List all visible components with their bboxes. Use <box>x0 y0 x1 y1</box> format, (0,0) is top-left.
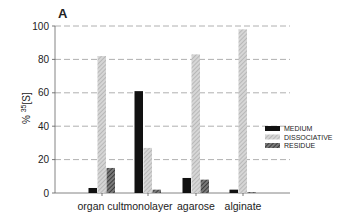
bar-dissociative <box>144 148 153 193</box>
bar-residue <box>107 168 116 193</box>
bar-residue <box>248 192 257 193</box>
y-tick-label: 0 <box>43 188 49 199</box>
legend-swatch <box>265 143 280 148</box>
y-tick-label: 40 <box>38 121 50 132</box>
y-tick-label: 60 <box>38 87 50 98</box>
legend: MEDIUMDISSOCIATIVERESIDUE <box>265 125 333 149</box>
x-tick-label: monolayer <box>123 200 173 212</box>
legend-swatch <box>265 135 280 140</box>
bars <box>89 29 257 193</box>
bar-medium <box>183 178 192 193</box>
bar-residue <box>153 190 162 193</box>
gridlines <box>55 26 290 160</box>
axes <box>52 26 290 196</box>
x-tick-label: agarose <box>177 200 215 212</box>
legend-swatch <box>265 126 280 131</box>
bar-residue <box>201 180 210 193</box>
legend-label: MEDIUM <box>284 125 313 132</box>
bar-dissociative <box>239 29 248 193</box>
bar-dissociative <box>98 56 107 193</box>
bar-dissociative <box>192 54 201 193</box>
y-tick-label: 80 <box>38 54 50 65</box>
bar-medium <box>135 91 144 193</box>
bar-medium <box>89 188 98 193</box>
x-tick-label: alginate <box>225 200 262 212</box>
bar-medium <box>230 190 239 193</box>
y-axis-label: % 35[S] <box>20 92 32 124</box>
x-tick-label: organ cult. <box>77 200 126 212</box>
legend-label: RESIDUE <box>284 142 315 149</box>
legend-label: DISSOCIATIVE <box>284 134 333 141</box>
y-tick-label: 100 <box>32 21 49 32</box>
bar-chart: organ cult.monolayeragarosealginate 0204… <box>0 0 345 219</box>
y-tick-label: 20 <box>38 154 50 165</box>
x-tick-labels: organ cult.monolayeragarosealginate <box>77 200 261 212</box>
y-tick-labels: 020406080100 <box>32 21 49 199</box>
